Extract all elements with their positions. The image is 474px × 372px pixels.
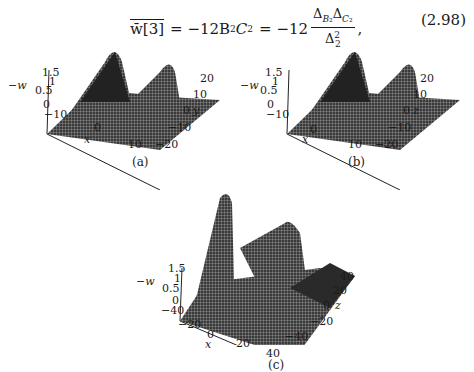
surface-b	[260, 42, 474, 190]
eq-lhs: w̄[3]	[130, 20, 164, 38]
plot-c: 1.5 1 0.5 0 −w −40 −20 0 20 40 x 40 20 0…	[140, 188, 380, 345]
caption-a: (a)	[132, 155, 149, 169]
eq-part2: = −12	[259, 20, 308, 38]
caption-c: (c)	[268, 358, 284, 372]
eq-c: C	[236, 20, 247, 38]
eq-part1: = −12B	[170, 20, 230, 38]
equation-number: (2.98)	[421, 11, 466, 29]
plot-a: 1.5 1 0.5 0 −w −10 0 10 x 20 10 0 y −10 …	[20, 42, 240, 190]
equation-2-98: w̄[3] = −12B2 C2 = −12 ΔB₂ΔC₂ Δ22 , (2.9…	[0, 2, 474, 42]
eq-trail: ,	[358, 20, 363, 38]
plot-b: 1.5 1 0.5 0 −w −10 0 10 x 20 10 0 z −10 …	[260, 42, 474, 190]
caption-b: (b)	[348, 155, 365, 169]
